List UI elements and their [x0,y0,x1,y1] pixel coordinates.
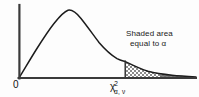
origin-label: 0 [13,79,19,90]
chi-superscript: 2 [114,80,118,87]
chi-square-distribution-figure: Shaded area equal to α 0 χ2α, ν [0,0,199,97]
shaded-area-annotation: Shaded area equal to α [126,29,173,49]
annotation-line-1: Shaded area [126,29,173,39]
annotation-line-2: equal to α [126,39,173,49]
critical-value-label: χ2α, ν [110,78,131,96]
chi-subscript: α, ν [114,88,125,95]
